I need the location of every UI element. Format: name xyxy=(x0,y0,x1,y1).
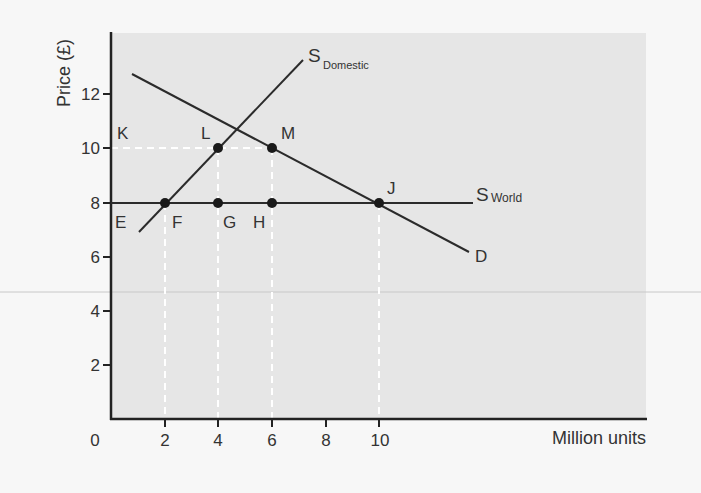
domestic-supply-label: S xyxy=(308,45,321,66)
domestic-supply-sub: Domestic xyxy=(323,59,369,71)
svg-text:8: 8 xyxy=(91,194,100,213)
x-axis-title: Million units xyxy=(552,428,646,448)
svg-text:H: H xyxy=(253,213,265,232)
x-tick-labels: 0 2 4 6 8 10 xyxy=(90,431,389,450)
svg-text:10: 10 xyxy=(371,431,390,450)
svg-text:M: M xyxy=(281,124,295,143)
world-supply-sub: World xyxy=(491,191,522,205)
svg-text:2: 2 xyxy=(91,356,100,375)
svg-text:0: 0 xyxy=(90,431,99,450)
svg-text:K: K xyxy=(117,124,129,143)
y-tick-labels: 12 10 8 6 4 2 xyxy=(81,85,100,375)
svg-text:F: F xyxy=(172,213,182,232)
demand-label: D xyxy=(475,247,487,266)
svg-text:G: G xyxy=(223,213,236,232)
svg-text:J: J xyxy=(387,179,396,198)
svg-text:4: 4 xyxy=(91,302,100,321)
svg-text:L: L xyxy=(201,124,210,143)
svg-text:10: 10 xyxy=(81,139,100,158)
y-axis-title: Price (£) xyxy=(54,39,74,107)
svg-text:12: 12 xyxy=(81,85,100,104)
chart-canvas: 12 10 8 6 4 2 0 2 4 6 8 10 Million units… xyxy=(0,0,701,493)
svg-text:E: E xyxy=(115,213,126,232)
svg-text:6: 6 xyxy=(267,431,276,450)
svg-text:4: 4 xyxy=(213,431,222,450)
svg-text:8: 8 xyxy=(321,431,330,450)
svg-text:2: 2 xyxy=(160,431,169,450)
world-supply-label: S xyxy=(476,184,489,205)
svg-text:6: 6 xyxy=(91,248,100,267)
